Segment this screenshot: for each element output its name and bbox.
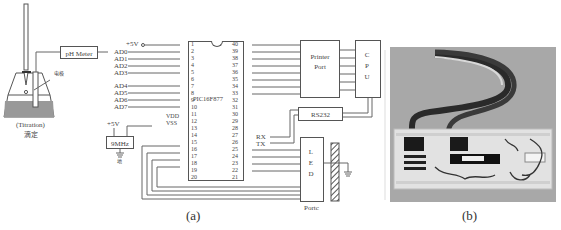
titration-label-cn: 滴定 [24,132,38,139]
pin-24: 24 [232,153,238,160]
pin-25: 25 [232,146,238,153]
pin-5: 5 [191,69,194,76]
pin-21: 21 [232,174,238,181]
rs232-box: RS232 [298,107,343,121]
pin-35: 35 [232,76,238,83]
ad7-label: AD7 [114,104,128,111]
pin-6: 6 [191,76,194,83]
pin-19: 19 [191,167,197,174]
pin-26: 26 [232,139,238,146]
pin-18: 18 [191,160,197,167]
caption-b: (b) [462,208,477,224]
pin-16: 16 [191,146,197,153]
pin-13: 13 [191,125,197,132]
pin-2: 2 [191,48,194,55]
printer-port-box: Printer Port [300,40,340,98]
pin-38: 38 [232,55,238,62]
pin-12: 12 [191,118,197,125]
pin-9: 9 [191,97,194,104]
pin-32: 32 [232,97,238,104]
rs232-label: RS232 [299,111,342,119]
chip-notch [211,41,223,47]
pin-4: 4 [191,62,194,69]
pin-22: 22 [232,167,238,174]
pin-17: 17 [191,153,197,160]
breadboard-photo [390,47,556,202]
ph-meter-label: pH Meter [61,50,97,58]
led-box: LED [300,137,324,202]
pin-7: 7 [191,83,194,90]
pin-30: 30 [232,111,238,118]
vss-label: VSS [166,120,177,127]
electrode-label: 电极 [54,70,64,77]
ad3-label: AD3 [114,70,128,77]
osc-vcc-label: +5V [107,121,120,128]
pin-28: 28 [232,125,238,132]
pin-8: 8 [191,90,194,97]
ribbon-cable-illustration [390,47,556,202]
pin-40: 40 [232,41,238,48]
pin-29: 29 [232,118,238,125]
ground-label: 地 [117,158,122,165]
pin-27: 27 [232,132,238,139]
printer-port-label-1: Printer [301,53,339,61]
caption-a: (a) [186,208,200,224]
chip-label: PIC16F877 [193,95,223,102]
pin-15: 15 [191,139,197,146]
resistor-array [331,143,339,201]
cpu-label: CPU [363,51,371,84]
pin-20: 20 [191,174,197,181]
pin-33: 33 [232,90,238,97]
pin-34: 34 [232,83,238,90]
pin-36: 36 [232,69,238,76]
pin-10: 10 [191,104,197,111]
pin-1: 1 [191,41,194,48]
oscillator-box: 9MHz [106,136,134,149]
pin-3: 3 [191,55,194,62]
pin-14: 14 [191,132,197,139]
ph-meter-box: pH Meter [60,46,98,59]
vcc-label: +5V [126,41,139,48]
pin-23: 23 [232,160,238,167]
pin-37: 37 [232,62,238,69]
printer-port-label-2: Port [301,63,339,71]
vdd-label: VDD [166,113,179,120]
pin-39: 39 [232,48,238,55]
titration-label: (Titration) [16,122,45,129]
tx-label: TX [256,141,265,148]
pin-11: 11 [191,111,197,118]
led-label: LED [307,148,315,181]
cpu-box: CPU [355,40,381,98]
portc-label: Portc [304,205,319,212]
pin-31: 31 [232,104,238,111]
oscillator-label: 9MHz [107,140,133,148]
